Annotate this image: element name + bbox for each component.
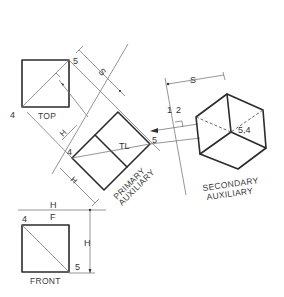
edge-view-line (59, 80, 88, 117)
dimension-line (60, 168, 95, 203)
front-h-label: H (84, 238, 91, 248)
cube-edge (227, 94, 231, 132)
fold-line-12-line (165, 78, 186, 195)
secondary-s-dimension: S (167, 72, 225, 85)
fold-line-12: 1 2 (165, 78, 186, 195)
dimension-dot-icon (167, 83, 169, 85)
extension-tick (92, 199, 99, 206)
right-angle-marker (52, 73, 60, 77)
extension-tick (223, 72, 225, 80)
fold-label-1: 1 (167, 105, 172, 115)
top-s-label: S (97, 66, 108, 77)
dimension-dot-icon (119, 90, 121, 92)
fold-label-2: 2 (176, 105, 181, 115)
extension-tick (76, 46, 83, 53)
orthographic-drawing: 4 5 TOP S TL 4 5 PRIMARY AUXILIARY H H 1… (0, 0, 284, 297)
primary-point-4: 4 (67, 147, 72, 157)
projection-line (69, 60, 160, 151)
top-point-4: 4 (10, 110, 15, 120)
fold-label-h: H (50, 200, 57, 210)
fold-line-hf: H F (18, 200, 106, 222)
arrowhead-icon (89, 269, 92, 273)
top-s-dimension: S (76, 46, 125, 96)
secondary-s-label: S (190, 75, 196, 85)
secondary-point-54: 5,4 (238, 125, 251, 135)
true-length-label: TL (119, 141, 130, 151)
projection-line (150, 138, 200, 144)
front-view: 4 5 FRONT (22, 214, 80, 286)
cube-edge (200, 132, 231, 154)
sight-arrow-line (152, 124, 198, 131)
top-view-label: TOP (38, 111, 56, 121)
front-view-diagonal (22, 225, 69, 272)
top-view: 4 5 TOP (10, 56, 88, 121)
hidden-edge (196, 117, 231, 132)
primary-h-upper-label: H (58, 128, 69, 139)
secondary-auxiliary-view: 5,4 SECONDARY AUXILIARY (196, 94, 266, 202)
front-view-label: FRONT (30, 276, 61, 286)
fold-label-f: F (50, 212, 56, 222)
arrowhead-icon (150, 128, 158, 133)
primary-h-lower-label: H (69, 175, 80, 186)
front-point-4: 4 (22, 214, 27, 224)
primary-auxiliary-view: TL 4 5 PRIMARY AUXILIARY (67, 112, 157, 207)
front-point-5: 5 (75, 262, 80, 272)
front-h-dimension: H (69, 210, 95, 273)
